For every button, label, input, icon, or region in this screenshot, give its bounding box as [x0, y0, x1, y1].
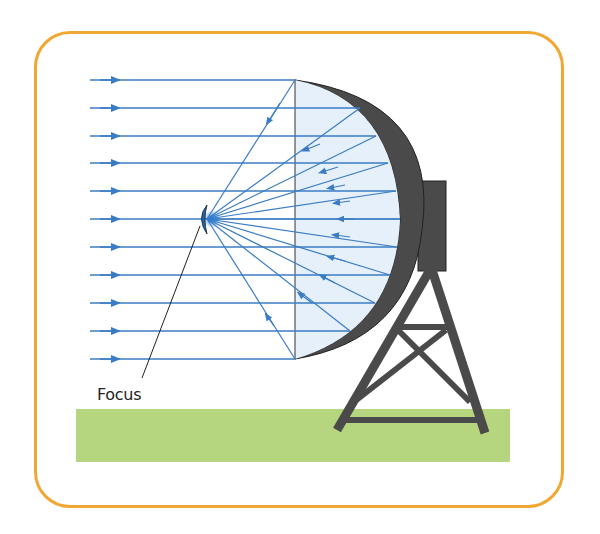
focus-leader-line	[142, 226, 200, 378]
ground	[76, 409, 510, 462]
focus-label: Focus	[97, 385, 141, 404]
incoming-ray-arrows	[100, 80, 116, 359]
reflector-diagram	[0, 0, 600, 534]
